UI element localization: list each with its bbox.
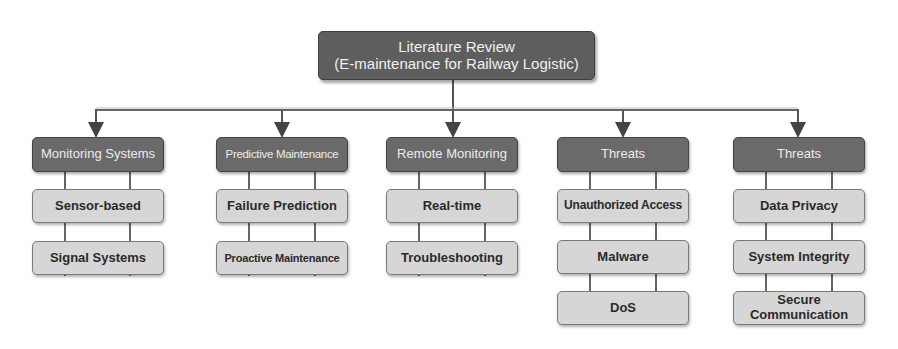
node-label: Threats (777, 147, 821, 162)
node-label: Troubleshooting (401, 251, 503, 266)
node-secure-communication: Secure Communication (733, 291, 865, 325)
root-subtitle: (E-maintenance for Railway Logistic) (334, 56, 578, 73)
node-malware: Malware (557, 240, 689, 274)
node-label: System Integrity (748, 250, 849, 265)
node-real-time: Real-time (386, 189, 518, 223)
node-label: Signal Systems (50, 251, 146, 266)
node-predictive-maintenance: Predictive Maintenance (216, 137, 348, 172)
root-node: Literature Review (E-maintenance for Rai… (318, 31, 595, 80)
node-label: DoS (610, 301, 636, 316)
node-label: Unauthorized Access (564, 199, 682, 212)
node-failure-prediction: Failure Prediction (216, 189, 348, 223)
diagram-canvas: Literature Review (E-maintenance for Rai… (0, 0, 898, 349)
node-troubleshooting: Troubleshooting (386, 241, 518, 275)
node-remote-monitoring: Remote Monitoring (386, 137, 518, 172)
node-dos: DoS (557, 291, 689, 325)
node-proactive-maintenance: Proactive Maintenance (216, 241, 348, 275)
node-sensor-based: Sensor-based (32, 189, 164, 223)
node-label: Failure Prediction (227, 199, 337, 214)
node-label: Secure Communication (748, 293, 850, 322)
node-data-privacy: Data Privacy (733, 189, 865, 223)
node-label: Remote Monitoring (397, 147, 507, 162)
node-unauthorized-access: Unauthorized Access (557, 189, 689, 223)
node-label: Data Privacy (760, 199, 838, 214)
node-signal-systems: Signal Systems (32, 241, 164, 275)
node-label: Predictive Maintenance (226, 148, 339, 161)
node-label: Real-time (423, 199, 482, 214)
node-label: Monitoring Systems (41, 147, 155, 162)
root-title: Literature Review (398, 39, 515, 56)
node-threats-2: Threats (733, 137, 865, 172)
node-label: Threats (601, 147, 645, 162)
node-label: Sensor-based (55, 199, 141, 214)
node-system-integrity: System Integrity (733, 240, 865, 274)
node-label: Malware (597, 250, 648, 265)
node-monitoring-systems: Monitoring Systems (32, 137, 164, 172)
node-threats-1: Threats (557, 137, 689, 172)
node-label: Proactive Maintenance (224, 252, 339, 264)
